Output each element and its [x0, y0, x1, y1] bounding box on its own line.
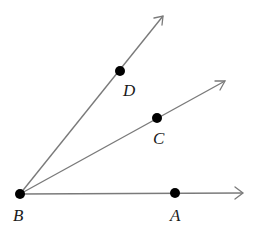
- label-a: A: [169, 206, 181, 225]
- label-b: B: [13, 206, 24, 225]
- ray-ba: [20, 187, 243, 199]
- ray-bd: [20, 16, 163, 194]
- point-d: [115, 66, 125, 76]
- label-c: C: [153, 129, 165, 148]
- point-c: [152, 113, 162, 123]
- point-a: [170, 188, 180, 198]
- rays-diagram: B A C D: [0, 0, 258, 242]
- point-b: [15, 189, 25, 199]
- label-d: D: [122, 81, 136, 100]
